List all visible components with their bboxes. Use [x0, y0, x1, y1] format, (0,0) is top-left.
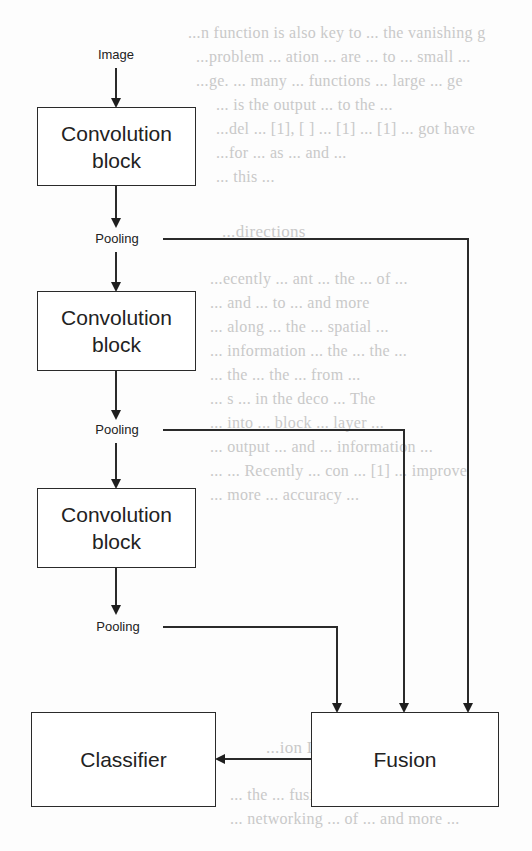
block-title: Convolution — [61, 120, 172, 147]
block-subtitle: block — [61, 147, 172, 174]
classifier-label: Classifier — [80, 746, 166, 773]
arrow-pooling3-to-fusion — [163, 627, 337, 711]
convolution-block-1: Convolution block — [37, 107, 196, 186]
arrow-pooling2-to-fusion — [163, 430, 404, 711]
convolution-block-2: Convolution block — [37, 291, 196, 371]
block-subtitle: block — [61, 331, 172, 358]
pooling-label-1: Pooling — [95, 231, 138, 246]
fusion-label: Fusion — [373, 746, 436, 773]
fusion-box: Fusion — [311, 712, 499, 807]
pooling-label-2: Pooling — [95, 422, 138, 437]
input-image-label: Image — [98, 47, 134, 62]
block-title: Convolution — [61, 304, 172, 331]
block-title: Convolution — [61, 501, 172, 528]
arrow-pooling1-to-fusion — [163, 239, 468, 711]
pooling-label-3: Pooling — [96, 619, 139, 634]
convolution-block-3: Convolution block — [37, 488, 196, 568]
block-subtitle: block — [61, 528, 172, 555]
classifier-box: Classifier — [31, 712, 216, 807]
cnn-fusion-diagram: Image Convolution block Pooling Convolut… — [0, 0, 532, 851]
